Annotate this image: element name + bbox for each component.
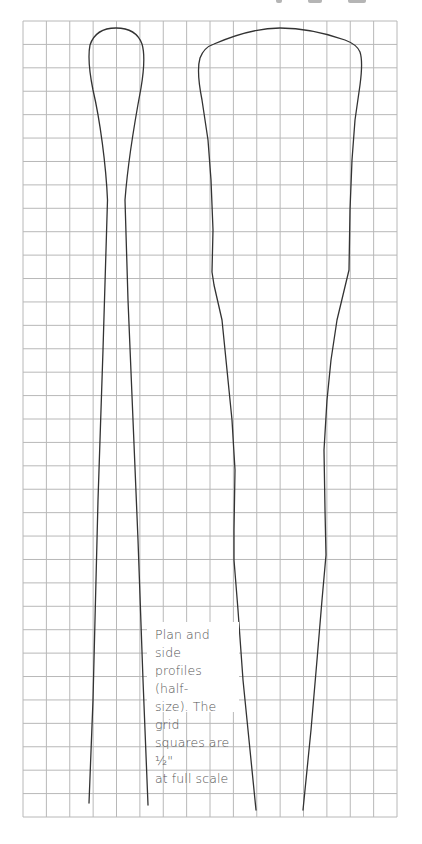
plan-profile-outline — [89, 28, 148, 805]
figure-caption: Plan and side profiles (half- size). The… — [147, 622, 239, 712]
caption-text: Plan and side profiles (half- size). The… — [155, 626, 239, 788]
